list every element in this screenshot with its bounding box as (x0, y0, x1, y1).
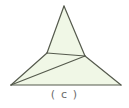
figure-caption: ( c ) (0, 88, 129, 102)
figure-container: ( c ) (0, 0, 129, 108)
base-polygon-shape (11, 53, 121, 85)
upper-triangle-shape (47, 6, 85, 56)
